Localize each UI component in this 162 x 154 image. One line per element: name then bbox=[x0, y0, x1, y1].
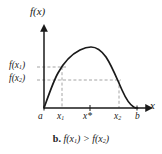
x-tick-label-xstar: x* bbox=[83, 112, 92, 122]
y-axis-label: f(x) bbox=[30, 6, 45, 17]
caption-lhs: f(x bbox=[63, 133, 74, 144]
caption-tail: ) bbox=[106, 133, 109, 144]
y-value-label-fx2: f(x2) bbox=[9, 74, 25, 84]
fx2-tail: ) bbox=[22, 73, 25, 83]
figure-container: f(x) x f(x1) f(x2) a x1 x* x2 b b. f(x1)… bbox=[0, 0, 162, 154]
fx2-head: f(x bbox=[9, 73, 19, 83]
x2-subscript: 2 bbox=[118, 115, 121, 121]
x1-subscript: 1 bbox=[61, 115, 64, 121]
figure-caption: b. f(x1) > f(x2) bbox=[0, 133, 162, 144]
fx1-head: f(x bbox=[9, 60, 19, 70]
x-tick-label-b: b bbox=[135, 112, 140, 122]
caption-expression: f(x1) > f(x2) bbox=[61, 133, 109, 144]
x-tick-label-x2: x2 bbox=[114, 112, 121, 122]
y-value-label-fx1: f(x1) bbox=[9, 61, 25, 71]
fx1-tail: ) bbox=[22, 60, 25, 70]
caption-letter: b. bbox=[53, 133, 61, 144]
caption-mid: ) > f(x bbox=[77, 133, 103, 144]
x-tick-label-x1: x1 bbox=[57, 112, 64, 122]
x-tick-label-a: a bbox=[38, 112, 43, 122]
function-curve bbox=[44, 47, 138, 108]
x-axis-label: x bbox=[150, 100, 155, 111]
